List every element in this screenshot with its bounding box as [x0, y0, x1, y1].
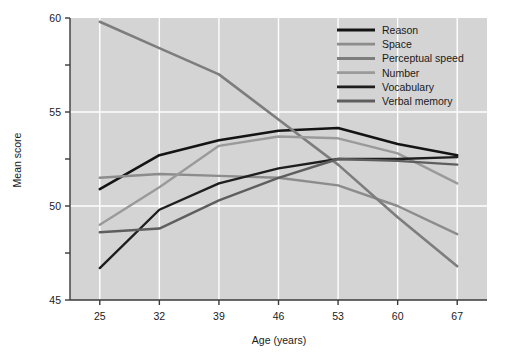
y-tick-label: 50	[49, 200, 61, 212]
legend-item-label: Reason	[382, 24, 418, 36]
x-tick-label: 32	[154, 310, 166, 322]
chart-canvas: 4550556025323946536067 ReasonSpacePercep…	[0, 0, 508, 355]
y-tick-label: 45	[49, 294, 61, 306]
y-tick-label: 55	[49, 106, 61, 118]
legend-item-label: Space	[382, 38, 412, 50]
x-tick-label: 60	[392, 310, 404, 322]
legend-item-label: Perceptual speed	[382, 52, 464, 64]
legend-item-label: Number	[382, 67, 420, 79]
x-tick-label: 53	[332, 310, 344, 322]
y-axis-title: Mean score	[11, 132, 23, 187]
line-chart: 4550556025323946536067 ReasonSpacePercep…	[0, 0, 508, 355]
x-axis-title: Age (years)	[252, 334, 306, 346]
x-tick-label: 67	[451, 310, 463, 322]
legend-item-label: Verbal memory	[382, 95, 453, 107]
x-tick-label: 39	[213, 310, 225, 322]
x-tick-label: 25	[94, 310, 106, 322]
y-tick-label: 60	[49, 12, 61, 24]
legend-item-label: Vocabulary	[382, 81, 435, 93]
x-tick-label: 46	[273, 310, 285, 322]
